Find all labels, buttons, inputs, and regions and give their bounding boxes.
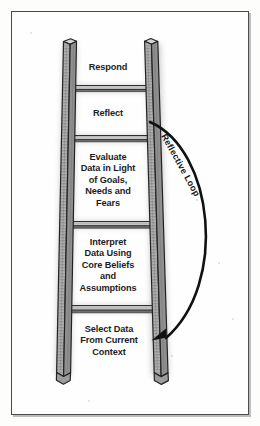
ladder-left-rail (56, 39, 76, 384)
ladder-drawing (0, 0, 260, 426)
rung-separator-4 (58, 306, 160, 313)
rung-separator-3 (61, 222, 156, 229)
ladder-of-inference-figure: Respond Reflect Evaluate Data in Light o… (0, 0, 260, 426)
rung-separator-1 (66, 86, 151, 92)
rung-separator-2 (64, 136, 154, 142)
